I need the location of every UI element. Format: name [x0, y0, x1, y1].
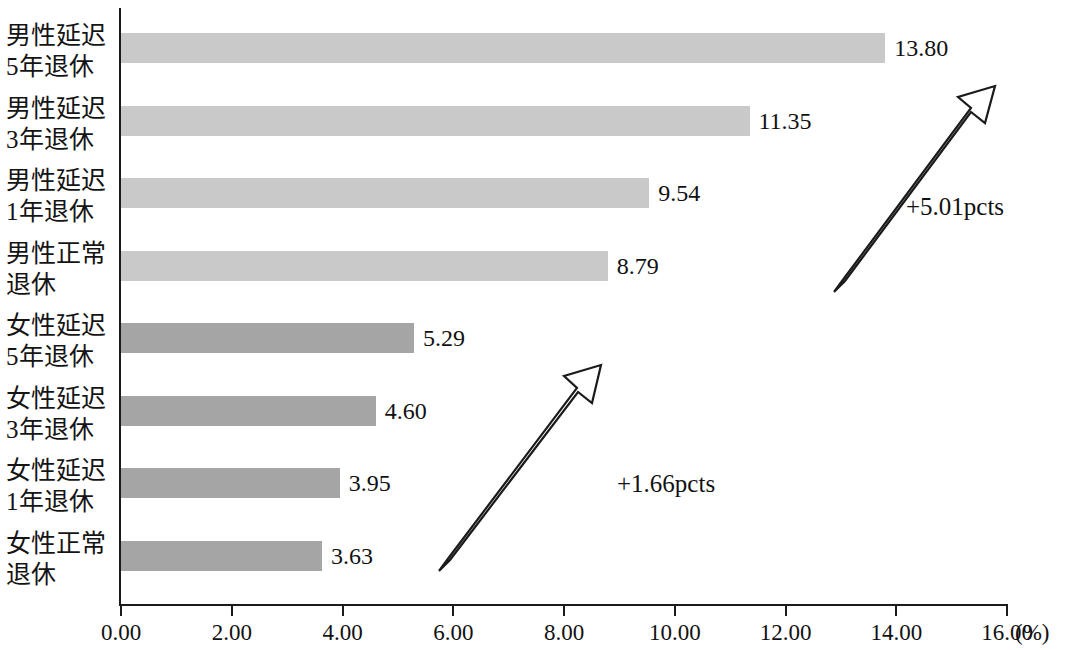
x-tick-0 — [120, 606, 122, 616]
x-tick-8 — [1006, 606, 1008, 616]
bar-value-7: 3.63 — [331, 541, 373, 571]
bar-value-3: 8.79 — [617, 251, 659, 281]
bar-value-4: 5.29 — [423, 323, 465, 353]
x-tick-5 — [674, 606, 676, 616]
annotation-female-delta: +1.66pcts — [617, 470, 715, 498]
category-label-0: 男性延迟 5年退休 — [6, 20, 118, 82]
x-tick-label-1: 2.00 — [212, 620, 252, 646]
bar-3 — [121, 251, 608, 281]
x-tick-label-0: 0.00 — [101, 620, 141, 646]
bar-0 — [121, 33, 885, 63]
bar-value-6: 3.95 — [349, 468, 391, 498]
x-tick-2 — [342, 606, 344, 616]
category-label-7: 女性正常 退休 — [6, 528, 118, 590]
arrow-up-male-icon — [834, 86, 995, 292]
x-tick-4 — [563, 606, 565, 616]
x-tick-label-5: 10.00 — [649, 620, 701, 646]
arrow-up-female-icon — [439, 365, 601, 571]
x-tick-6 — [785, 606, 787, 616]
bar-7 — [121, 541, 322, 571]
category-label-4: 女性延迟 5年退休 — [6, 310, 118, 372]
category-label-6: 女性延迟 1年退休 — [6, 455, 118, 517]
bar-value-1: 11.35 — [759, 106, 812, 136]
x-axis-unit-label: (%) — [1015, 620, 1049, 646]
category-label-5: 女性延迟 3年退休 — [6, 383, 118, 445]
bar-value-5: 4.60 — [385, 396, 427, 426]
category-label-2: 男性延迟 1年退休 — [6, 165, 118, 227]
bar-value-2: 9.54 — [658, 178, 700, 208]
bar-2 — [121, 178, 649, 208]
x-tick-1 — [231, 606, 233, 616]
x-tick-7 — [895, 606, 897, 616]
x-tick-label-4: 8.00 — [544, 620, 584, 646]
y-axis-line — [119, 8, 121, 606]
bar-5 — [121, 396, 376, 426]
bar-1 — [121, 106, 750, 136]
bar-value-0: 13.80 — [894, 33, 948, 63]
x-tick-label-3: 6.00 — [433, 620, 473, 646]
annotation-male-delta: +5.01pcts — [906, 193, 1004, 221]
category-label-3: 男性正常 退休 — [6, 238, 118, 300]
x-tick-3 — [452, 606, 454, 616]
bar-chart: 男性延迟 5年退休 男性延迟 3年退休 男性延迟 1年退休 男性正常 退休 女性… — [0, 0, 1087, 650]
category-label-1: 男性延迟 3年退休 — [6, 93, 118, 155]
bar-6 — [121, 468, 340, 498]
bar-4 — [121, 323, 414, 353]
x-tick-label-7: 14.00 — [870, 620, 922, 646]
x-tick-label-2: 4.00 — [322, 620, 362, 646]
x-tick-label-6: 12.00 — [760, 620, 812, 646]
